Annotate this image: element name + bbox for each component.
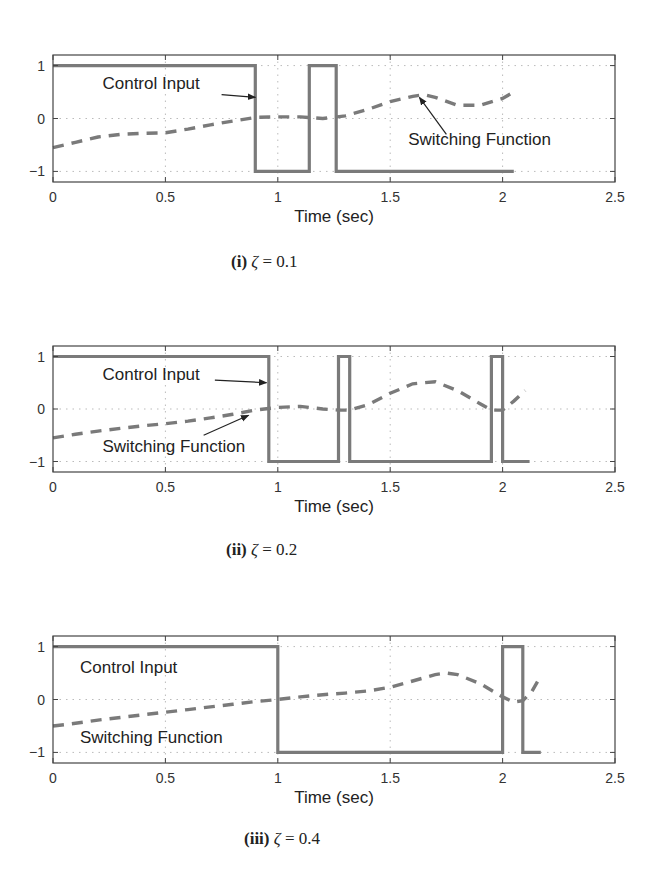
x-tick-label: 0 <box>49 770 57 786</box>
caption-iii-label: (iii) <box>244 829 270 848</box>
x-axis-title: Time (sec) <box>294 788 374 807</box>
zeta-symbol: ζ <box>274 829 281 848</box>
chart-iii-svg: 00.511.522.510−1Time (sec)Control InputS… <box>0 0 660 883</box>
x-tick-label: 1.5 <box>380 770 400 786</box>
x-tick-label: 2 <box>499 770 507 786</box>
x-tick-label: 2.5 <box>605 770 625 786</box>
chart-panel-iii: 00.511.522.510−1Time (sec)Control InputS… <box>0 0 660 883</box>
y-tick-label: 1 <box>37 639 45 655</box>
x-tick-label: 1 <box>274 770 282 786</box>
switching-function-line <box>53 673 541 726</box>
y-tick-label: 0 <box>37 692 45 708</box>
y-tick-label: −1 <box>29 744 45 760</box>
caption-iii: (iii) ζ = 0.4 <box>244 829 320 849</box>
caption-iii-value: = 0.4 <box>285 829 320 848</box>
annotation-label: Switching Function <box>80 728 223 747</box>
x-tick-label: 0.5 <box>156 770 176 786</box>
annotation-label: Control Input <box>80 658 178 677</box>
